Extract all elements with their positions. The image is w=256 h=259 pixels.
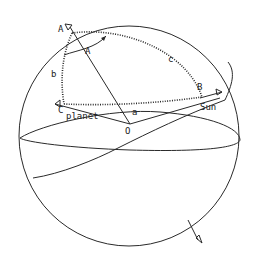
label-angle-A: A bbox=[85, 46, 91, 56]
label-pole-A: A bbox=[58, 24, 64, 34]
label-sun: Sun bbox=[200, 102, 216, 112]
sphere-outline bbox=[19, 26, 239, 246]
side-a-arc bbox=[64, 97, 202, 105]
sun-arrow-icon bbox=[216, 89, 222, 95]
line-sun-extension bbox=[200, 92, 222, 98]
celestial-sphere-diagram: A A b c B C a O planet Sun bbox=[0, 0, 256, 259]
label-side-c: c bbox=[168, 54, 173, 64]
label-planet: planet bbox=[66, 111, 99, 121]
axis-bottom-arrow-icon bbox=[196, 235, 202, 243]
label-center-O: O bbox=[125, 126, 130, 136]
side-b-arc bbox=[62, 33, 72, 104]
label-vertex-B: B bbox=[197, 82, 202, 92]
label-side-a: a bbox=[132, 107, 137, 117]
side-c-arc bbox=[72, 32, 202, 97]
label-vertex-C: C bbox=[58, 105, 63, 115]
label-side-b: b bbox=[51, 69, 56, 79]
